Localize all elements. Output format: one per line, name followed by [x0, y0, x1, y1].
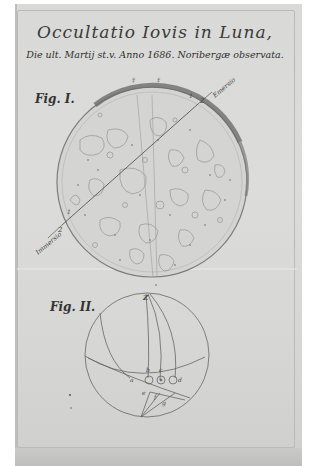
point-b: b [146, 366, 150, 373]
marker-top-2: ‡ [156, 76, 161, 83]
figure-2-diagram [85, 293, 209, 417]
figure-2-labels: Z a b c d e f g [130, 293, 182, 407]
immersion-label: Immersio [33, 230, 63, 257]
figure-1-moon: ‡ ‡ Emersio 2 1 2 1 Immersio [33, 76, 247, 277]
point-a: a [130, 376, 134, 383]
point-e: e [142, 389, 146, 396]
ink-dot [69, 394, 71, 396]
emersion-label: Emersio [210, 76, 237, 100]
ink-dot [155, 284, 157, 286]
figures-drawing: ‡ ‡ Emersio 2 1 2 1 Immersio Z a b [0, 0, 310, 466]
chord-bottom-point: 1 [67, 208, 71, 215]
point-g: g [162, 399, 166, 407]
point-d: d [178, 376, 182, 383]
zenith-label: Z [142, 293, 149, 302]
chord-top-label: 2 [199, 97, 205, 105]
chord-top-point: 1 [189, 92, 193, 99]
marker-top-1: ‡ [131, 76, 136, 83]
ink-dot [70, 407, 72, 409]
